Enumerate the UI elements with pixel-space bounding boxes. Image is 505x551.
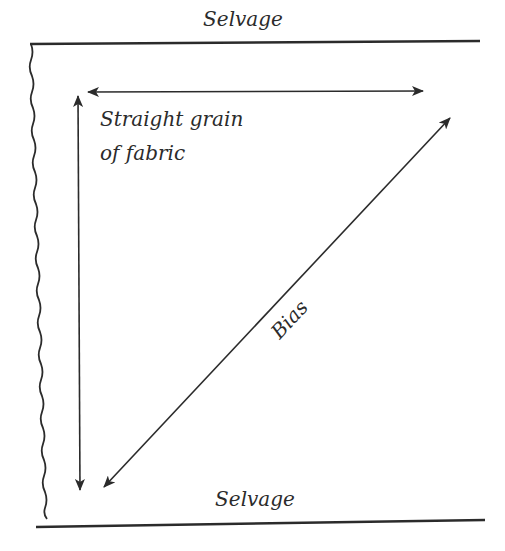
- bias-label: Bias: [265, 295, 313, 344]
- top-selvage-label: Selvage: [203, 7, 283, 31]
- straight-grain-label-line1: Straight grain: [100, 107, 243, 131]
- straight-grain-label-line2: of fabric: [100, 141, 185, 165]
- cut-edge: [30, 44, 47, 519]
- top-selvage-edge: [30, 41, 480, 44]
- bias-arrow: [104, 118, 450, 487]
- bottom-selvage-edge: [36, 520, 485, 527]
- bottom-selvage-label: Selvage: [215, 487, 295, 511]
- vertical-grain-arrow: [78, 96, 80, 490]
- horizontal-grain-arrow: [88, 91, 423, 92]
- fabric-grain-diagram: Selvage Selvage Straight grain of fabric…: [0, 0, 505, 551]
